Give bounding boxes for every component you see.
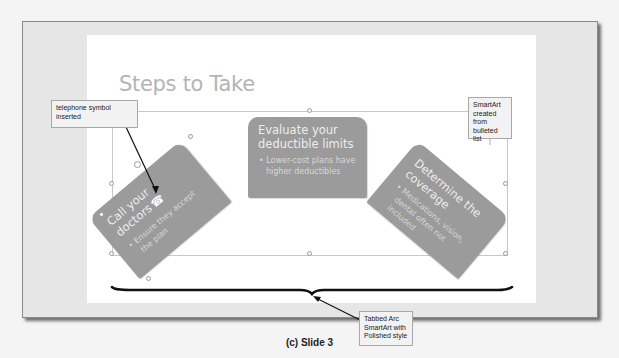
callout-arrow-layout <box>316 298 360 320</box>
figure-caption: (c) Slide 3 <box>0 337 619 348</box>
annotation-overlay <box>0 0 619 358</box>
callout-arrow-telephone <box>126 127 156 191</box>
callout-smartart-source: SmartArt created from bulleted list <box>468 97 512 139</box>
callout-telephone: telephone symbol inserted <box>51 100 138 128</box>
brace-icon <box>112 287 512 294</box>
